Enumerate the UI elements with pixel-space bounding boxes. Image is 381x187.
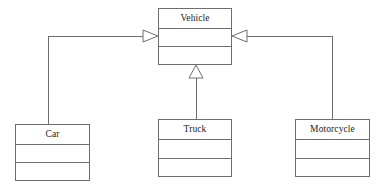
class-name-compartment: Car (16, 125, 89, 145)
uml-class-vehicle[interactable]: Vehicle (158, 8, 232, 65)
class-name-compartment: Vehicle (159, 9, 231, 29)
diagram-canvas: Vehicle Car Truck Motorcycle (0, 0, 381, 187)
hollow-triangle-icon (232, 30, 247, 42)
class-attributes-compartment (296, 140, 369, 159)
class-operations-compartment (296, 159, 369, 178)
uml-class-truck[interactable]: Truck (158, 119, 232, 177)
class-name-compartment: Motorcycle (296, 120, 369, 140)
class-name-label: Vehicle (180, 14, 209, 24)
generalization-motorcycle-to-vehicle[interactable] (232, 30, 332, 119)
hollow-triangle-icon (143, 30, 158, 42)
generalization-truck-to-vehicle[interactable] (189, 65, 203, 119)
class-name-label: Truck (184, 125, 207, 135)
generalization-car-to-vehicle[interactable] (48, 30, 158, 124)
class-operations-compartment (159, 47, 231, 66)
connector-line-car (48, 36, 143, 124)
hollow-triangle-icon (189, 65, 203, 78)
class-name-label: Motorcycle (310, 125, 355, 135)
class-name-compartment: Truck (159, 120, 231, 140)
class-attributes-compartment (159, 29, 231, 47)
class-attributes-compartment (159, 140, 231, 159)
class-attributes-compartment (16, 145, 89, 163)
class-operations-compartment (16, 163, 89, 182)
uml-class-motorcycle[interactable]: Motorcycle (295, 119, 370, 177)
class-operations-compartment (159, 159, 231, 178)
connector-line-motorcycle (247, 36, 332, 119)
class-name-label: Car (45, 130, 59, 140)
uml-class-car[interactable]: Car (15, 124, 90, 181)
